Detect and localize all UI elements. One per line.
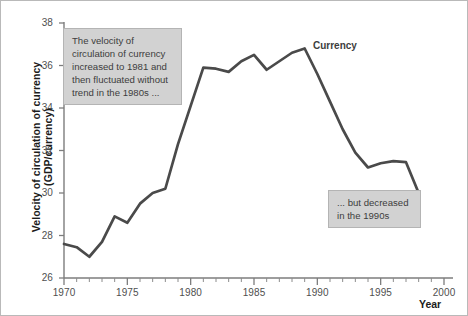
- x-tick-label-2000: 2000: [424, 287, 464, 298]
- chart-figure: 26283032343638 1970197519801985199019952…: [0, 0, 468, 316]
- x-axis-title: Year: [419, 298, 441, 310]
- x-tick-label-1990: 1990: [297, 287, 337, 298]
- annotation-decrease: ... but decreased in the 1990s: [328, 190, 421, 228]
- y-tick-label-38: 38: [31, 17, 53, 28]
- y-axis-title: Velocity of circulation of currency (GDP…: [30, 32, 54, 262]
- x-tick-label-1975: 1975: [107, 287, 147, 298]
- x-axis-ticks: [64, 278, 444, 285]
- x-tick-label-1980: 1980: [171, 287, 211, 298]
- x-tick-label-1995: 1995: [361, 287, 401, 298]
- series-label-currency: Currency: [313, 40, 357, 51]
- x-tick-label-1970: 1970: [44, 287, 84, 298]
- y-tick-label-26: 26: [31, 272, 53, 283]
- x-tick-label-1985: 1985: [234, 287, 274, 298]
- annotation-increase: The velocity of circulation of currency …: [63, 28, 182, 105]
